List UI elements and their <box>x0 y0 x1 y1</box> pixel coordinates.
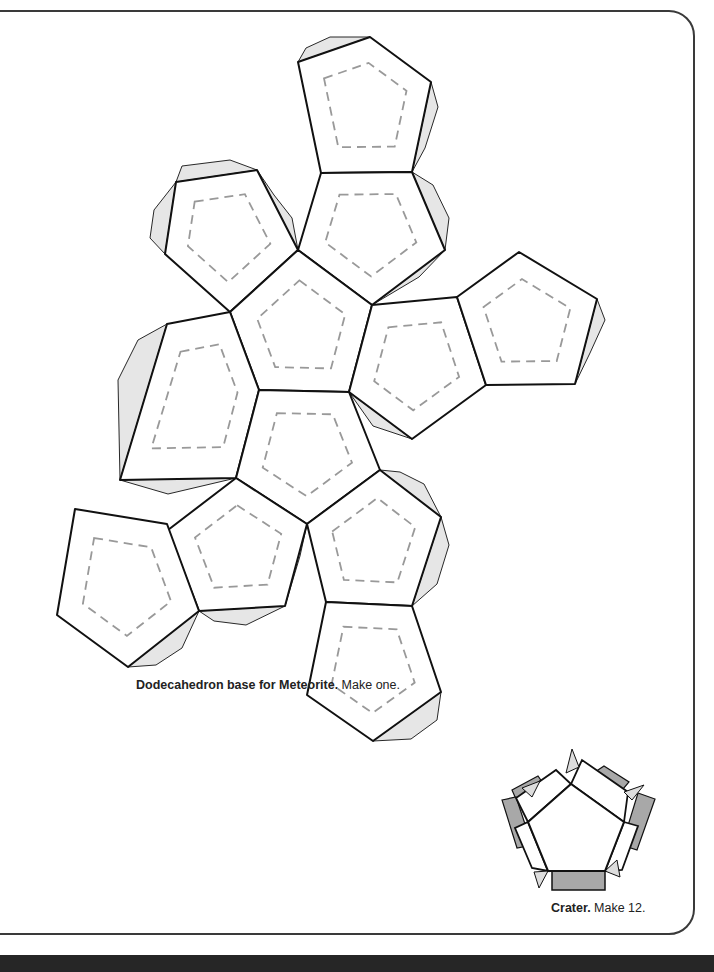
crater-caption-instruction: Make 12. <box>591 901 646 915</box>
base-caption: Dodecahedron base for Meteorite. Make on… <box>136 678 400 692</box>
dodecahedron-net <box>0 0 714 972</box>
crater-piece <box>502 749 655 890</box>
bottom-band <box>0 955 714 972</box>
crater-caption: Crater. Make 12. <box>551 901 646 915</box>
pentagon-face <box>298 37 431 173</box>
base-caption-title: Dodecahedron base for Meteorite. <box>136 678 338 692</box>
crater-corner-tab <box>534 871 548 888</box>
base-caption-instruction: Make one. <box>338 678 400 692</box>
crater-tab <box>552 870 605 890</box>
crater-caption-title: Crater. <box>551 901 591 915</box>
